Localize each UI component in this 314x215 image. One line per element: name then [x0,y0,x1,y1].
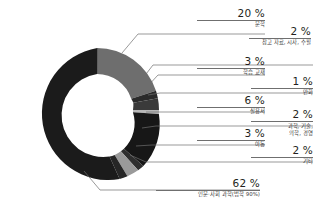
label-inmun: 62 % 인문·사회 과학(법학 90%) [156,178,260,198]
label-chamgo-category: 참고 자료, 시사, 수필 [249,39,311,46]
label-gita-value: 2 % [251,145,313,157]
donut-chart-figure: 20 % 문학 2 % 참고 자료, 시사, 수필 3 % 학습 교재 1 % … [0,0,313,215]
label-gita-category: 기타 [251,158,313,165]
label-gita: 2 % 기타 [251,145,313,165]
label-adong-value: 3 % [197,128,265,140]
label-haksup-value: 3 % [197,56,265,68]
label-munhak-value: 20 % [197,8,265,20]
label-inmun-value: 62 % [156,178,260,190]
leader-line-munhak [122,34,265,53]
label-chamgo: 2 % 참고 자료, 시사, 수필 [249,26,311,46]
label-silyong-value: 6 % [197,95,265,107]
label-munhak: 20 % 문학 [197,8,265,28]
label-gwahak-value: 2 % [251,109,313,121]
leader-line-haksup [146,75,265,88]
label-gwahak-category-line2: 의학, 경영 [289,130,313,136]
label-manhwa: 1 % 만화 [251,76,313,96]
label-gwahak-category-line1: 과학, 기술, [288,123,314,129]
label-manhwa-value: 1 % [251,76,313,88]
label-haksup: 3 % 학습 교재 [197,56,265,76]
slice-munhak[interactable] [97,48,156,99]
label-chamgo-value: 2 % [249,26,311,38]
label-haksup-category: 학습 교재 [197,69,265,76]
label-inmun-category: 인문·사회 과학(법학 90%) [156,191,260,198]
